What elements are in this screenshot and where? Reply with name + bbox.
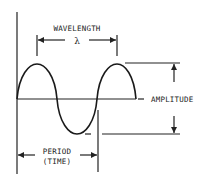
wavelength-indicator: WAVELENGTH λ [37, 24, 117, 56]
sine-wave-diagram: WAVELENGTH λ AMPLITUDE PERIOD (TIME) [0, 0, 206, 184]
wavelength-label: WAVELENGTH [53, 24, 100, 33]
amplitude-label: AMPLITUDE [151, 95, 194, 104]
period-indicator: PERIOD (TIME) [18, 110, 98, 172]
period-label: PERIOD [43, 147, 72, 156]
lambda-symbol: λ [74, 36, 80, 46]
period-sublabel: (TIME) [43, 157, 71, 166]
